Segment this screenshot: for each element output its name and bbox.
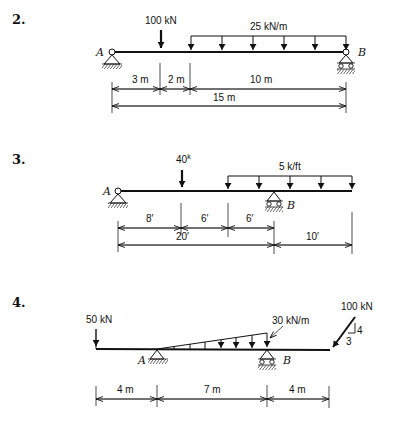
distributed-load-icon — [191, 36, 346, 50]
inclined-load-label: 100 kN — [341, 301, 373, 312]
problem-4: 4. 50 kN A B — [12, 295, 373, 408]
dim-label: 10′ — [306, 231, 319, 242]
support-label-b: B — [286, 199, 295, 212]
support-label-a: A — [137, 354, 146, 367]
support-label-b: B — [282, 354, 291, 367]
dimension-lines — [118, 203, 352, 254]
dim-label: 20′ — [176, 231, 189, 242]
dim-label: 6′ — [201, 213, 209, 224]
beam — [96, 349, 330, 350]
dim-label: 7 m — [204, 384, 221, 395]
dim-label: 6′ — [246, 213, 254, 224]
pin-support-icon — [148, 350, 168, 364]
dim-label: 4 m — [289, 384, 306, 395]
problem-3: 3. A B 40k 5 — [12, 152, 352, 254]
dim-label: 2 m — [168, 74, 185, 85]
support-label-a: A — [95, 46, 104, 59]
point-load-label: 100 kN — [145, 15, 177, 26]
leader-arrow-icon — [270, 326, 283, 338]
triangular-load-icon — [157, 333, 267, 349]
slope-horizontal-label: 3 — [346, 336, 352, 347]
inclined-load-arrow-icon — [333, 317, 355, 347]
dimension-lines — [112, 63, 346, 113]
distributed-load-label: 30 kN/m — [272, 315, 309, 326]
dim-label: 3 m — [132, 74, 149, 85]
support-label-b: B — [357, 46, 366, 59]
point-load-label: 50 kN — [86, 314, 112, 325]
dim-label: 8′ — [146, 213, 154, 224]
dim-label: 15 m — [213, 92, 235, 103]
distributed-load-icon — [228, 176, 352, 189]
distributed-load-label: 5 k/ft — [279, 161, 301, 172]
slope-vertical-label: 4 — [357, 325, 363, 336]
problem-number: 4. — [12, 295, 26, 310]
dim-label: 4 m — [117, 384, 134, 395]
problem-number: 3. — [12, 152, 26, 167]
dim-label: 10 m — [250, 74, 272, 85]
support-label-a: A — [102, 185, 111, 198]
problem-2: 2. A B 100 kN — [12, 12, 366, 113]
roller-support-icon — [265, 192, 283, 212]
problem-number: 2. — [12, 12, 26, 27]
point-load-label: 40k — [176, 153, 191, 165]
roller-support-icon — [258, 350, 276, 370]
distributed-load-label: 25 kN/m — [250, 21, 287, 32]
